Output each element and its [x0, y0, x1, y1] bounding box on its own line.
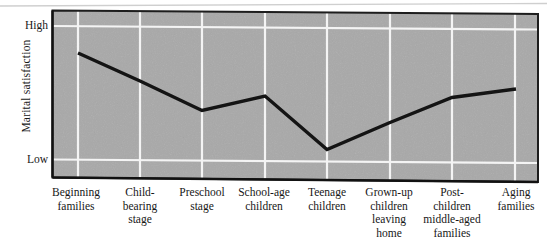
x-label-line: Aging [466, 186, 547, 200]
x-axis-labels: Beginning families Child- bearing stage … [50, 186, 542, 244]
x-label-line: families [402, 227, 502, 241]
x-label-line: middle-aged [402, 213, 502, 227]
page-rule-top [0, 4, 547, 7]
x-label-line: families [466, 200, 547, 214]
x-label-line: stage [90, 213, 190, 227]
chart-figure: Marital satisfaction High Low [0, 0, 547, 248]
x-label-aging-families: Aging families [466, 186, 547, 213]
